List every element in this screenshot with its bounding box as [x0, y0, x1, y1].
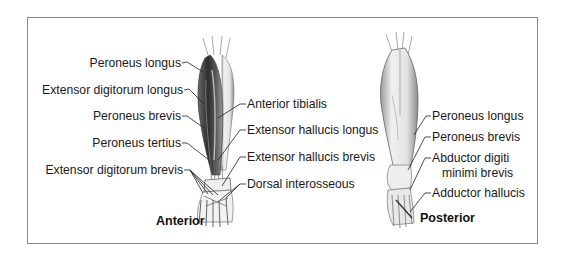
label-anterior-peroneus-tertius: Peroneus tertius	[92, 136, 181, 150]
anterior-view-title: Anterior	[156, 214, 205, 228]
label-anterior-peroneus-brevis: Peroneus brevis	[93, 109, 181, 123]
label-abductor-digiti-line2: minimi brevis	[442, 166, 513, 180]
anterior-leg-icon	[197, 36, 234, 227]
label-anterior-extensor-digitorum-longus: Extensor digitorum longus	[42, 83, 183, 97]
label-posterior-peroneus-brevis: Peroneus brevis	[432, 130, 520, 144]
label-adductor-hallucis: Adductor hallucis	[432, 186, 525, 200]
posterior-leg-icon	[380, 32, 418, 228]
label-anterior-peroneus-longus: Peroneus longus	[90, 56, 181, 70]
label-posterior-peroneus-longus: Peroneus longus	[432, 109, 523, 123]
label-anterior-extensor-digitorum-brevis: Extensor digitorum brevis	[45, 163, 183, 177]
label-extensor-hallucis-longus: Extensor hallucis longus	[247, 123, 378, 137]
label-abductor-digiti-line1: Abductor digiti	[432, 151, 509, 165]
posterior-view-title: Posterior	[420, 211, 475, 225]
label-dorsal-interosseous: Dorsal interosseous	[247, 177, 355, 191]
label-extensor-hallucis-brevis: Extensor hallucis brevis	[247, 150, 375, 164]
label-anterior-tibialis: Anterior tibialis	[247, 97, 327, 111]
